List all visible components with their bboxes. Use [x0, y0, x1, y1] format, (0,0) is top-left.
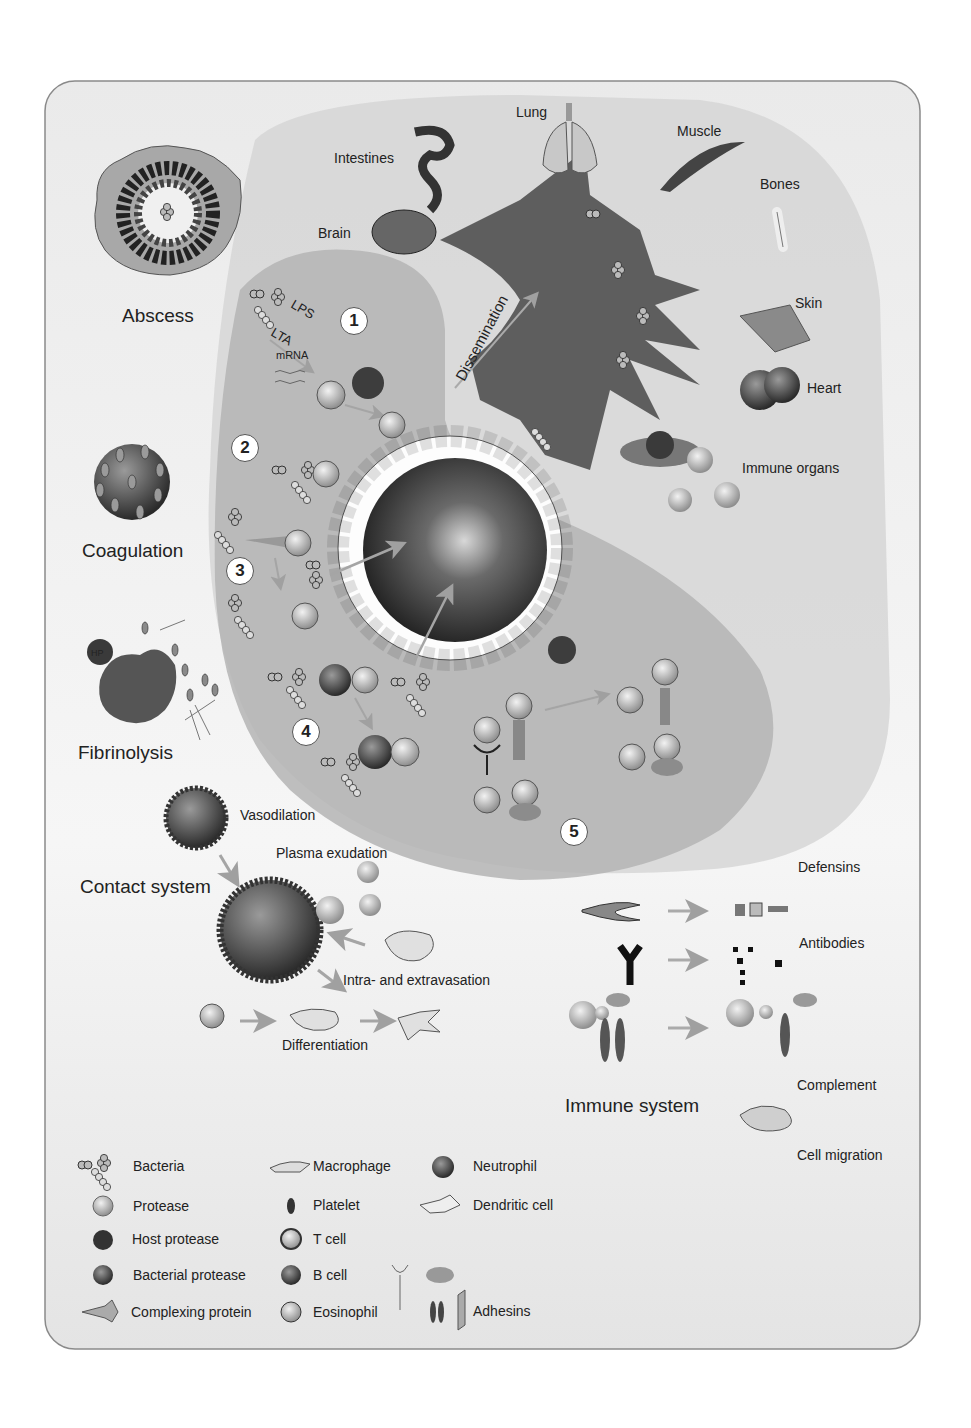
label-mrna: mRNA [276, 350, 308, 361]
legend-complexing-protein: Complexing protein [131, 1305, 252, 1319]
label-immune-organs: Immune organs [742, 461, 839, 475]
figure: HP [0, 0, 971, 1428]
label-brain: Brain [318, 226, 351, 240]
label-coagulation: Coagulation [82, 541, 183, 560]
label-complement: Complement [797, 1078, 876, 1092]
label-intra-extravasation: Intra- and extravasation [343, 973, 490, 987]
legend-eosinophil: Eosinophil [313, 1305, 378, 1319]
label-antibodies: Antibodies [799, 936, 864, 950]
label-skin: Skin [795, 296, 822, 310]
blood-vessel [338, 436, 562, 660]
label-defensins: Defensins [798, 860, 860, 874]
label-intestines: Intestines [334, 151, 394, 165]
label-cell-migration: Cell migration [797, 1148, 883, 1162]
label-bones: Bones [760, 177, 800, 191]
label-plasma-exudation: Plasma exudation [276, 846, 387, 860]
legend-neutrophil: Neutrophil [473, 1159, 537, 1173]
organ-brain [372, 210, 436, 254]
step-2-badge: 2 [231, 434, 259, 462]
label-muscle: Muscle [677, 124, 721, 138]
label-contact-system: Contact system [80, 877, 211, 896]
svg-text:HP: HP [91, 648, 104, 658]
legend-bacteria: Bacteria [133, 1159, 184, 1173]
step-1-badge: 1 [340, 307, 368, 335]
label-immune-system: Immune system [565, 1096, 699, 1115]
legend-platelet: Platelet [313, 1198, 360, 1212]
label-differentiation: Differentiation [282, 1038, 368, 1052]
label-lung: Lung [516, 105, 547, 119]
coagulation-illustration [94, 444, 170, 520]
step-4-badge: 4 [292, 718, 320, 746]
legend-adhesins: Adhesins [473, 1304, 531, 1318]
legend-protease: Protease [133, 1199, 189, 1213]
label-abscess: Abscess [122, 306, 194, 325]
label-vasodilation: Vasodilation [240, 808, 315, 822]
legend-host-protease: Host protease [132, 1232, 219, 1246]
label-heart: Heart [807, 381, 841, 395]
legend-t-cell: T cell [313, 1232, 346, 1246]
step-3-badge: 3 [226, 557, 254, 585]
legend-dendritic-cell: Dendritic cell [473, 1198, 553, 1212]
organ-bones [777, 212, 783, 247]
step-5-badge: 5 [560, 818, 588, 846]
legend-b-cell: B cell [313, 1268, 347, 1282]
label-fibrinolysis: Fibrinolysis [78, 743, 173, 762]
legend-bacterial-protease: Bacterial protease [133, 1268, 246, 1282]
legend-macrophage: Macrophage [313, 1159, 391, 1173]
